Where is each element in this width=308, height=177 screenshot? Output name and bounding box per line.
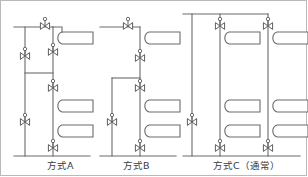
scheme-c-group	[183, 14, 308, 156]
scheme-c-radiator-2a	[225, 100, 260, 112]
scheme-b-radiator-2	[145, 100, 180, 112]
caption-scheme-c: 方式C（通常）	[213, 158, 280, 172]
caption-scheme-a: 方式A	[47, 158, 74, 172]
scheme-c-radiator-2b	[273, 100, 308, 112]
scheme-c-radiator-3a	[225, 125, 260, 137]
scheme-b-radiator-3	[145, 125, 180, 137]
scheme-b-group	[100, 17, 180, 156]
scheme-c-radiator-1b	[273, 32, 308, 44]
scheme-c-radiator-3b	[273, 125, 308, 137]
scheme-b-radiator-1	[145, 32, 180, 44]
scheme-a-valve-supply[interactable]	[40, 17, 49, 29]
scheme-a-radiator-2	[58, 100, 93, 112]
caption-scheme-b: 方式B	[123, 158, 150, 172]
scheme-c-radiator-1a	[225, 32, 260, 44]
scheme-b-valve-supply[interactable]	[123, 17, 132, 29]
scheme-a-rad1-inlet	[53, 27, 62, 32]
figure-canvas: 方式A 方式B 方式C（通常）	[0, 0, 308, 177]
scheme-a-radiator-1	[58, 32, 93, 44]
piping-schematic-svg	[0, 0, 308, 177]
scheme-a-radiator-3	[58, 125, 93, 137]
scheme-a-group	[14, 17, 93, 156]
